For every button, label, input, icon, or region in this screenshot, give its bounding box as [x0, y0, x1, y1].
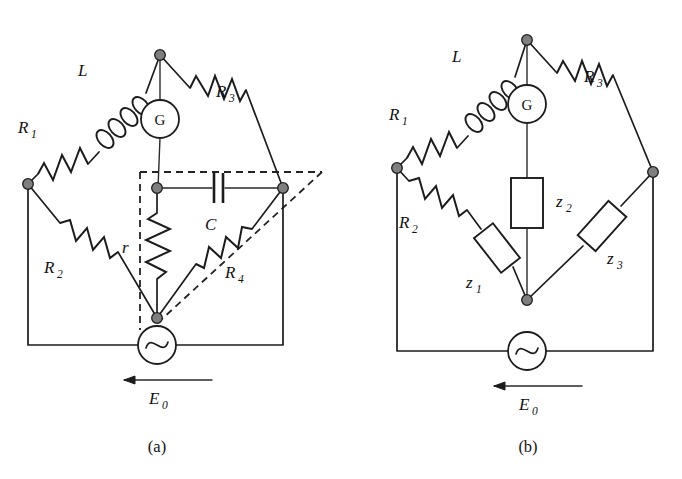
label-r3-sub-a: 3 — [228, 92, 235, 104]
labels-a: R 1 L R 3 R 2 r C R 4 E 0 (a) — [17, 61, 244, 456]
r2-lead-upper — [28, 184, 60, 223]
e0-arrow-head-a — [124, 376, 135, 384]
r3-lead-lower — [246, 90, 283, 188]
label-l-a: L — [77, 61, 87, 80]
node-bottom-a — [152, 313, 163, 324]
label-e0-sub-a: 0 — [162, 399, 168, 411]
z3-lead-lower — [527, 246, 583, 300]
panel-b: G R 1 L R — [388, 35, 658, 456]
label-z3-b: z — [606, 249, 614, 268]
r3-lead-upper-b — [527, 40, 557, 73]
node-right-b — [648, 167, 659, 178]
branch-z3-b — [527, 172, 653, 300]
r3-lead-lower-b — [613, 75, 653, 172]
source-voltage-arrow-a — [124, 376, 212, 384]
node-mid-a — [152, 183, 163, 194]
r1-lead-upper-b — [457, 136, 468, 148]
branch-r2-a — [28, 184, 157, 318]
r1-zigzag-b — [407, 132, 457, 164]
label-r4-sub-a: 4 — [238, 273, 244, 285]
impedance-box-z1 — [474, 223, 520, 272]
caption-b: (b) — [518, 437, 537, 456]
label-r2-b: R — [398, 213, 410, 232]
label-r1-sub-b: 1 — [402, 115, 408, 127]
branch-r4-a — [157, 188, 283, 318]
node-right-a — [278, 183, 289, 194]
e0-arrow-head-b — [494, 382, 505, 390]
label-r1-b: R — [388, 105, 400, 124]
impedance-box-z2 — [511, 178, 543, 228]
r-zigzag-a — [146, 213, 170, 279]
branch-r-small-a — [146, 188, 170, 318]
node-left-b — [392, 163, 403, 174]
label-r2-sub-b: 2 — [412, 223, 418, 235]
label-r3-sub-b: 3 — [596, 77, 603, 89]
source-voltage-arrow-b — [494, 382, 582, 390]
galvanometer-label-b: G — [522, 97, 533, 113]
dashed-delta-overlay-a — [140, 172, 322, 330]
ac-source-b — [508, 332, 546, 370]
panel-a: G — [17, 50, 322, 456]
figure-container: G — [0, 0, 682, 479]
dashed-hypotenuse — [150, 172, 322, 330]
label-l-b: L — [451, 47, 461, 66]
galvanometer-label-a: G — [155, 112, 166, 128]
r1-lead-upper — [88, 152, 99, 164]
label-z1-b: z — [465, 273, 473, 292]
label-c-a: C — [205, 215, 217, 234]
branch-capacitor-a — [157, 173, 283, 203]
label-r2-sub-a: 2 — [57, 268, 63, 280]
branch-galvanometer-a: G — [141, 55, 179, 188]
node-top-a — [155, 50, 166, 61]
label-z2-b: z — [555, 192, 563, 211]
label-r4-a: R — [224, 263, 236, 282]
label-z1-sub-b: 1 — [476, 283, 482, 295]
impedance-box-z3 — [578, 201, 627, 251]
label-e0-a: E — [148, 389, 160, 408]
r3-lead-upper — [160, 55, 190, 88]
l-lead-upper — [146, 55, 160, 93]
label-r3-a: R — [215, 82, 227, 101]
r2-zigzag-a — [60, 220, 118, 258]
g-lead-lower-a — [158, 138, 160, 188]
node-bottom-b — [522, 295, 533, 306]
circuit-diagram-canvas: G — [0, 0, 682, 479]
node-top-b — [522, 35, 533, 46]
r2-zigzag-b — [409, 178, 467, 216]
r2-lead-lower — [118, 252, 157, 318]
r1-zigzag-a — [38, 148, 88, 180]
label-r-small-a: r — [122, 238, 129, 257]
r2-lead-to-z1 — [467, 210, 481, 229]
caption-a: (a) — [148, 437, 166, 456]
node-left-a — [23, 179, 34, 190]
label-z2-sub-b: 2 — [566, 202, 572, 214]
label-z3-sub-b: 3 — [616, 259, 623, 271]
z3-lead-upper — [621, 172, 653, 206]
label-r3-b: R — [583, 67, 595, 86]
label-r2-a: R — [43, 258, 55, 277]
label-r1-a: R — [17, 118, 29, 137]
label-e0-sub-b: 0 — [532, 405, 538, 417]
label-e0-b: E — [518, 395, 530, 414]
r4-lead-lower — [157, 264, 196, 318]
ac-source-a — [138, 326, 176, 364]
label-r1-sub-a: 1 — [31, 128, 37, 140]
